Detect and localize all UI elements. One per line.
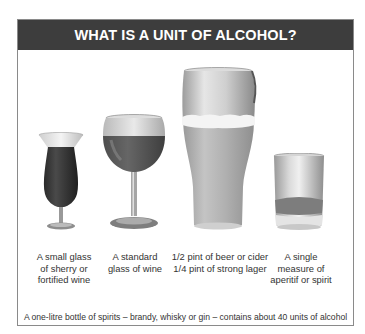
label-beer: 1/2 pint of beer or cider 1/4 pint of st…	[166, 251, 274, 274]
spirit-tumbler-icon	[272, 153, 326, 235]
footer-note: A one-litre bottle of spirits – brandy, …	[18, 312, 353, 322]
beer-pint-glass-icon	[180, 67, 260, 234]
infographic-frame: WHAT IS A UNIT OF ALCOHOL?	[17, 19, 354, 326]
sherry-glass-icon	[36, 132, 86, 232]
label-sherry: A small glass of sherry or fortified win…	[24, 251, 104, 286]
title-banner: WHAT IS A UNIT OF ALCOHOL?	[18, 20, 353, 50]
wine-glass-icon	[101, 114, 167, 234]
page-title: WHAT IS A UNIT OF ALCOHOL?	[74, 27, 296, 43]
label-wine: A standard glass of wine	[100, 251, 170, 274]
label-spirit: A single measure of aperitif or spirit	[268, 251, 334, 286]
